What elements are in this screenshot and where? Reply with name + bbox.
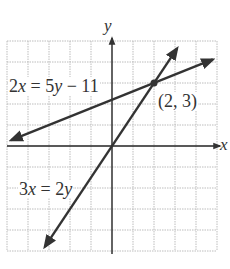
eq1-var-x: x bbox=[18, 76, 26, 96]
eq2-var-y: y bbox=[64, 179, 72, 199]
coordinate-plane bbox=[0, 0, 230, 269]
eq2-coef: 3 bbox=[19, 179, 28, 199]
eq1-tail: − 11 bbox=[62, 76, 98, 96]
eq1-var-y: y bbox=[54, 76, 62, 96]
intersection-point-marker bbox=[151, 80, 158, 87]
graph-figure: y x 2x = 5y − 11 3x = 2y (2, 3) bbox=[0, 0, 230, 269]
equation-label-2: 3x = 2y bbox=[18, 180, 73, 198]
eq2-mid: = 2 bbox=[36, 179, 64, 199]
eq2-var-x: x bbox=[28, 179, 36, 199]
equation-label-1: 2x = 5y − 11 bbox=[8, 77, 100, 95]
eq1-mid: = 5 bbox=[26, 76, 54, 96]
intersection-label: (2, 3) bbox=[157, 92, 198, 110]
eq1-coef: 2 bbox=[9, 76, 18, 96]
x-axis-label: x bbox=[220, 136, 228, 153]
y-axis-label: y bbox=[104, 17, 112, 34]
